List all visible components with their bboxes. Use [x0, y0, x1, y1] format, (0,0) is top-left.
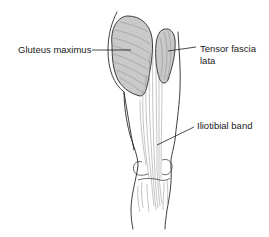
knee-joint: [133, 159, 172, 212]
label-tensor-fascia-lata: Tensor fascia lata: [200, 43, 256, 66]
label-tfl-line1: Tensor fascia: [200, 43, 256, 55]
thigh-knee-illustration: [0, 0, 269, 237]
tensor-fascia-lata-muscle: [156, 29, 176, 83]
gluteus-maximus-muscle: [112, 16, 153, 96]
label-tfl-line2: lata: [200, 55, 256, 67]
label-gluteus-maximus: Gluteus maximus: [18, 44, 91, 56]
itb-leader-line: [157, 127, 194, 145]
label-iliotibial-band: Iliotibial band: [197, 120, 252, 132]
